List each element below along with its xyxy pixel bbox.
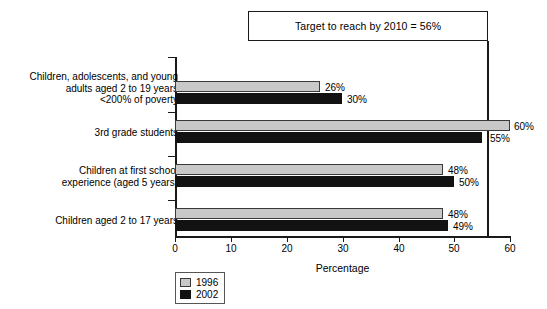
- category-label-3: Children aged 2 to 17 years: [0, 215, 178, 227]
- bar-value-cat3-series-2002: 49%: [453, 221, 473, 232]
- x-tick-30: [343, 237, 344, 242]
- category-label-1-line-0: 3rd grade students: [0, 127, 178, 139]
- bar-value-cat3-series-1996: 48%: [448, 209, 468, 220]
- bar-value-cat1-series-1996: 60%: [514, 121, 534, 132]
- target-callout-label: Target to reach by 2010 = 56%: [295, 20, 441, 32]
- x-tick-label-40: 40: [393, 243, 404, 254]
- legend-swatch-2002-icon: [180, 290, 191, 299]
- category-label-0-line-2: <200% of poverty: [0, 94, 178, 106]
- target-callout-box: Target to reach by 2010 = 56%: [248, 11, 488, 41]
- category-label-2-line-0: Children at first school: [0, 165, 178, 177]
- x-tick-0: [175, 237, 176, 242]
- x-tick-20: [287, 237, 288, 242]
- legend-item-2002: 2002: [180, 288, 218, 300]
- legend-label-1996: 1996: [196, 277, 218, 288]
- y-tick-0: [168, 57, 175, 58]
- x-axis-title: Percentage: [175, 262, 510, 274]
- x-tick-50: [454, 237, 455, 242]
- category-label-0-line-0: Children, adolescents, and young: [0, 71, 178, 83]
- bar-cat0-series-2002: [175, 93, 342, 104]
- x-tick-label-20: 20: [281, 243, 292, 254]
- bar-value-cat2-series-2002: 50%: [459, 177, 479, 188]
- category-label-1: 3rd grade students: [0, 127, 178, 139]
- bar-chart: Target to reach by 2010 = 56% 0 10 20 30…: [0, 0, 547, 309]
- bar-cat1-series-1996: [175, 120, 510, 131]
- legend-item-1996: 1996: [180, 276, 218, 288]
- y-tick-1: [168, 112, 175, 113]
- bar-value-cat1-series-2002: 55%: [490, 133, 510, 144]
- bar-value-cat0-series-1996: 26%: [325, 82, 345, 93]
- category-label-0-line-1: adults aged 2 to 19 years: [0, 83, 178, 95]
- y-tick-3: [168, 200, 175, 201]
- bar-cat3-series-2002: [175, 220, 448, 231]
- bar-value-cat0-series-2002: 30%: [347, 94, 367, 105]
- category-label-2-line-1: experience (aged 5 years): [0, 177, 178, 189]
- bar-cat1-series-2002: [175, 132, 482, 143]
- bar-cat2-series-1996: [175, 164, 443, 175]
- x-tick-label-50: 50: [448, 243, 459, 254]
- bar-value-cat2-series-1996: 48%: [448, 165, 468, 176]
- category-label-2: Children at first school experience (age…: [0, 165, 178, 188]
- bar-cat3-series-1996: [175, 208, 443, 219]
- chart-legend: 1996 2002: [175, 272, 225, 304]
- category-label-3-line-0: Children aged 2 to 17 years: [0, 215, 178, 227]
- bar-cat0-series-1996: [175, 81, 320, 92]
- legend-label-2002: 2002: [196, 289, 218, 300]
- y-tick-2: [168, 156, 175, 157]
- category-label-0: Children, adolescents, and young adults …: [0, 71, 178, 106]
- x-tick-10: [231, 237, 232, 242]
- x-tick-label-60: 60: [504, 243, 515, 254]
- x-tick-label-10: 10: [225, 243, 236, 254]
- target-reference-line: [487, 41, 489, 237]
- x-tick-label-30: 30: [337, 243, 348, 254]
- bar-cat2-series-2002: [175, 176, 454, 187]
- x-tick-label-0: 0: [172, 243, 178, 254]
- x-tick-60: [510, 237, 511, 242]
- legend-swatch-1996-icon: [180, 278, 191, 287]
- x-tick-40: [399, 237, 400, 242]
